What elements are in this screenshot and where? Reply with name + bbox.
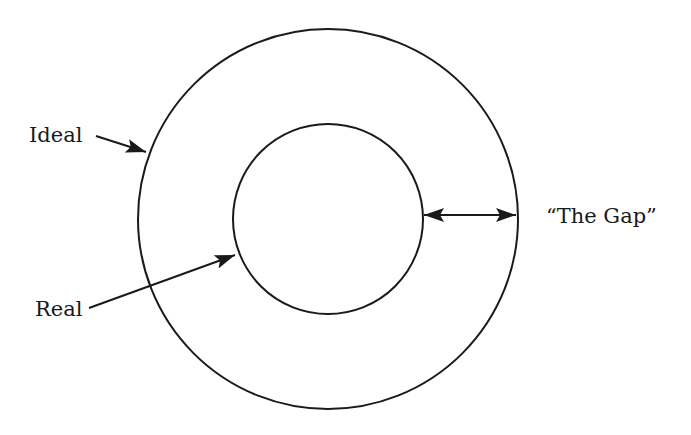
label-the-gap: “The Gap” — [546, 204, 657, 228]
arrow-ideal — [96, 136, 146, 152]
label-real: Real — [35, 297, 83, 321]
inner-circle-real — [233, 124, 423, 314]
outer-circle-ideal — [138, 29, 518, 409]
arrow-real — [89, 255, 235, 308]
label-ideal: Ideal — [29, 123, 83, 147]
ideal-real-gap-diagram: Ideal Real “The Gap” — [0, 0, 691, 435]
